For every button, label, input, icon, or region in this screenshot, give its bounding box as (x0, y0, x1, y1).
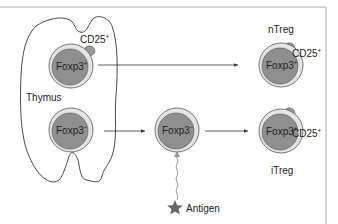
cell-thymus-foxp3-negative: Foxp3− (49, 108, 93, 152)
thymus-label: Thymus (26, 92, 62, 103)
star-icon (167, 200, 183, 215)
cell-marker-label: Foxp3+ (56, 60, 88, 72)
ntreg-label: nTreg (268, 24, 294, 35)
itreg-label: iTreg (271, 165, 293, 176)
antigen-stimulation-wavy-line (176, 152, 178, 200)
itreg-cd25-label: CD25+ (292, 127, 322, 139)
cell-thymus-foxp3-positive: Foxp3+ (49, 44, 95, 88)
cell-marker-label: Foxp3− (56, 124, 88, 136)
ntreg-cd25-label: CD25+ (292, 47, 322, 59)
cell-marker-label: Foxp3− (162, 124, 194, 136)
cell-periphery-foxp3-negative: Foxp3− (155, 108, 199, 152)
treg-diagram: Thymus Antigen Foxp3+ CD25+ Foxp3− Foxp3… (0, 0, 338, 224)
cd25-label: CD25+ (80, 33, 110, 45)
cell-marker-label: Foxp3+ (266, 59, 298, 71)
antigen-label: Antigen (186, 203, 220, 214)
